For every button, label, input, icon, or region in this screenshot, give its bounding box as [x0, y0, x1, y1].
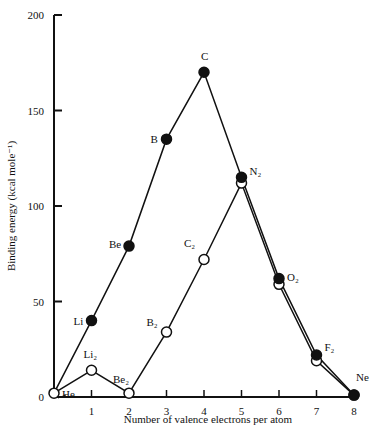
open-circle-marker [162, 327, 172, 337]
open-circle-marker [199, 254, 209, 264]
filled-circle-marker [124, 241, 134, 251]
point-label: C₂ [184, 237, 195, 249]
open-circle-marker [124, 388, 134, 398]
molecule-series-line [54, 183, 354, 395]
y-tick-label: 200 [28, 9, 45, 21]
filled-circle-marker [237, 172, 247, 182]
x-tick-label: 8 [351, 405, 357, 417]
x-axis-title: Number of valence electrons per atom [124, 413, 293, 425]
point-label: Li [74, 315, 84, 327]
filled-circle-marker [199, 67, 209, 77]
y-tick-label: 100 [28, 200, 45, 212]
filled-circle-marker [349, 390, 359, 400]
point-label: C [201, 50, 208, 62]
binding-energy-chart: 05010015020012345678 LiBeBCN₂O₂F₂NeHeLi₂… [0, 0, 379, 437]
point-label: F₂ [325, 341, 335, 353]
open-circle-marker [87, 365, 97, 375]
x-tick-label: 7 [314, 405, 320, 417]
open-circle-marker [49, 388, 59, 398]
y-tick-label: 0 [39, 391, 45, 403]
y-axis-title: Binding energy (kcal mole⁻¹) [5, 141, 18, 272]
point-label: He [62, 388, 75, 400]
point-labels: LiBeBCN₂O₂F₂NeHeLi₂Be₂B₂C₂ [58, 50, 369, 400]
point-label: B₂ [147, 316, 158, 328]
y-tick-label: 50 [33, 296, 45, 308]
axes: 05010015020012345678 [28, 9, 358, 417]
filled-circle-marker [162, 134, 172, 144]
point-label: Be [109, 238, 121, 250]
point-label: B [151, 133, 158, 145]
point-label: O₂ [287, 271, 299, 283]
y-tick-label: 150 [28, 105, 45, 117]
point-label: Ne [356, 371, 369, 383]
x-tick-label: 1 [89, 405, 95, 417]
filled-circle-marker [312, 350, 322, 360]
point-label: N₂ [250, 165, 262, 177]
point-label: Li₂ [84, 348, 98, 360]
filled-circle-marker [274, 274, 284, 284]
point-label: Be₂ [113, 373, 129, 385]
filled-circle-marker [87, 316, 97, 326]
